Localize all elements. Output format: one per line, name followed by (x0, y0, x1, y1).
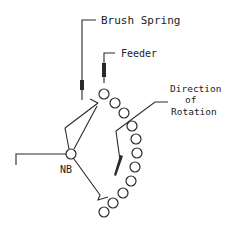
brush-spring-label: Brush Spring (101, 14, 180, 27)
linkage-lower (74, 159, 108, 200)
brush-diagram: Brush Spring Feeder Direction of Rotatio… (0, 0, 243, 232)
rotation-arrow-icon (114, 155, 123, 176)
segment-circle (127, 121, 137, 131)
direction-label-line1: Direction (170, 83, 221, 94)
segment-circle (119, 108, 129, 118)
segment-circle (99, 89, 109, 99)
segment-circle (132, 148, 142, 158)
linkage-upper-left (65, 103, 98, 128)
direction-label-line2: of (185, 94, 196, 105)
feeder-callout: Feeder (102, 48, 157, 83)
feeder-label: Feeder (121, 48, 157, 59)
feeder-leader (104, 53, 115, 64)
nb-leader (16, 154, 66, 165)
segment-circle (108, 198, 118, 208)
nb-node (66, 149, 76, 159)
segment-circle (118, 188, 128, 198)
segment-circle (131, 134, 141, 144)
linkage-left-vertical (65, 128, 69, 149)
nb-label: NB (60, 164, 72, 175)
feeder-body-icon (102, 63, 106, 77)
brush-spring-body-icon (80, 80, 84, 90)
segment-circle (126, 176, 136, 186)
direction-label-line3: Rotation (171, 106, 217, 117)
upper-brush-stub (90, 99, 98, 103)
brush-spring-leader (82, 20, 96, 80)
nb-linkage: NB (16, 99, 108, 200)
segment-circle (99, 207, 109, 217)
segment-circle (130, 162, 140, 172)
segment-circle (110, 98, 120, 108)
